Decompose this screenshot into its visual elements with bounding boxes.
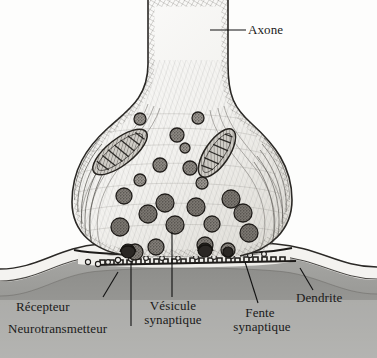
label-recepteur: Récepteur	[16, 300, 70, 314]
label-vesicule-line2: synaptique	[139, 313, 207, 327]
label-axone: Axone	[248, 23, 283, 37]
label-fente-line1: Fente	[240, 306, 280, 320]
label-fente-line2: synaptique	[228, 320, 296, 334]
label-neurotransmetteur: Neurotransmetteur	[8, 322, 107, 336]
presynaptic-terminal	[60, 0, 310, 270]
label-vesicule-line1: Vésicule	[144, 299, 202, 313]
synapse-figure-page: Axone Récepteur Neurotransmetteur Vésicu…	[0, 0, 377, 358]
label-dendrite: Dendrite	[296, 291, 342, 305]
